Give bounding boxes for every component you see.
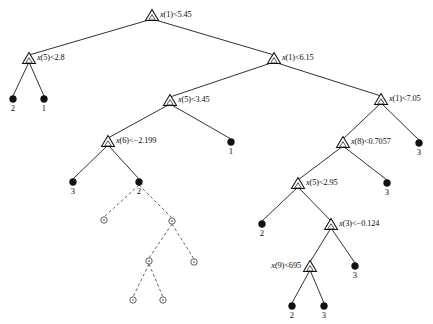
tree-edge-n1-l1: [29, 62, 44, 96]
leaf-node-label-l7: 2: [260, 229, 264, 238]
leaf-node-label-l6: 3: [385, 188, 389, 197]
leaf-node-l7[interactable]: [259, 221, 266, 228]
open-node-center-o0: [103, 219, 105, 221]
tree-edge-dashed-o1-o2: [149, 224, 172, 258]
split-condition-n6: (8)<0.7057: [355, 136, 391, 145]
tree-edge-dashed-o1-o3: [172, 224, 194, 259]
leaf-node-label-l1: 1: [42, 104, 46, 113]
open-node-center-o1: [171, 220, 173, 222]
open-node-center-o4: [132, 299, 134, 301]
split-node-label-n7: x(5)<2.95: [306, 178, 338, 186]
tree-edge-n8-n9: [310, 228, 331, 262]
leaf-node-l10[interactable]: [321, 303, 328, 310]
split-condition-n7: (5)<2.95: [310, 177, 338, 186]
leaf-node-l3[interactable]: [416, 140, 423, 147]
tree-canvas: [0, 0, 433, 324]
tree-edge-n0-n1: [29, 19, 152, 55]
leaf-nodes-group: [10, 96, 423, 310]
split-condition-n0: (1)<5.45: [164, 9, 192, 18]
leaf-node-l1[interactable]: [41, 96, 48, 103]
leaf-node-label-l10: 3: [322, 311, 326, 320]
split-condition-n2: (1)<6.15: [286, 52, 314, 61]
leaf-node-label-l0: 2: [11, 104, 15, 113]
tree-edge-n7-l7: [262, 187, 298, 221]
leaf-node-l0[interactable]: [10, 96, 17, 103]
tree-edge-n4-n6: [343, 103, 381, 139]
leaf-node-label-l8: 3: [353, 271, 357, 280]
tree-edge-n1-l0: [13, 62, 29, 96]
open-nodes-group: [101, 217, 197, 303]
tree-edge-n7-n8: [298, 187, 331, 221]
split-node-label-n4: x(1)<7.05: [389, 94, 421, 102]
split-node-label-n5: x(6)<−2.199: [116, 136, 156, 144]
leaf-node-l4[interactable]: [70, 179, 77, 186]
split-node-label-n6: x(8)<0.7057: [351, 137, 391, 145]
leaf-node-label-l9: 2: [290, 311, 294, 320]
leaf-node-label-l5: 2: [137, 187, 141, 196]
split-condition-n4: (1)<7.05: [393, 93, 421, 102]
tree-edge-n2-n4: [274, 62, 381, 96]
open-node-center-o5: [162, 299, 164, 301]
tree-edge-dashed-o2-o4: [133, 264, 149, 297]
tree-edge-n0-n2: [152, 19, 274, 55]
tree-edge-n4-l3: [381, 103, 419, 140]
leaf-node-label-l2: 1: [229, 147, 233, 156]
split-condition-n5: (6)<−2.199: [120, 135, 157, 144]
tree-edge-n5-l4: [73, 145, 108, 179]
split-condition-n8: (3)<−0.124: [343, 218, 380, 227]
tree-edge-n6-n7: [298, 146, 343, 180]
tree-edge-n8-l8: [331, 228, 355, 263]
solid-edges-group: [13, 19, 419, 303]
split-condition-n3: (5)<3.45: [182, 94, 210, 103]
split-condition-n1: (5)<2.8: [41, 52, 65, 61]
leaf-node-l9[interactable]: [289, 303, 296, 310]
decision-tree-figure: x(1)<5.45x(5)<2.8x(1)<6.15x(5)<3.45x(1)<…: [0, 0, 433, 324]
split-node-label-n0: x(1)<5.45: [160, 10, 192, 18]
split-node-label-n2: x(1)<6.15: [282, 53, 314, 61]
leaf-node-l8[interactable]: [352, 263, 359, 270]
split-node-label-n9: x(9)<695: [271, 261, 301, 269]
leaf-node-label-l4: 3: [71, 187, 75, 196]
split-nodes-group: [23, 10, 388, 272]
tree-edge-n6-l6: [343, 146, 387, 180]
leaf-node-l6[interactable]: [384, 180, 391, 187]
split-node-label-n1: x(5)<2.8: [37, 53, 65, 61]
open-node-center-o2: [148, 260, 150, 262]
tree-edge-dashed-o2-o5: [149, 264, 163, 297]
tree-edge-n3-n5: [108, 104, 170, 138]
split-condition-n9: (9)<695: [275, 260, 301, 269]
tree-edge-n5-l5: [108, 145, 139, 179]
split-node-label-n8: x(3)<−0.124: [339, 219, 379, 227]
split-node-label-n3: x(5)<3.45: [178, 95, 210, 103]
tree-edge-n9-l9: [292, 270, 310, 303]
leaf-node-l5[interactable]: [136, 179, 143, 186]
tree-edge-n3-l2: [170, 104, 231, 139]
dashed-edges-group: [104, 185, 194, 297]
open-node-center-o3: [193, 261, 195, 263]
tree-edge-n2-n3: [170, 62, 274, 97]
tree-edge-dashed-l5-o1: [139, 185, 172, 218]
leaf-node-l2[interactable]: [228, 139, 235, 146]
leaf-node-label-l3: 3: [417, 148, 421, 157]
tree-edge-n9-l10: [310, 270, 324, 303]
tree-edge-dashed-l5-o0: [104, 185, 139, 217]
